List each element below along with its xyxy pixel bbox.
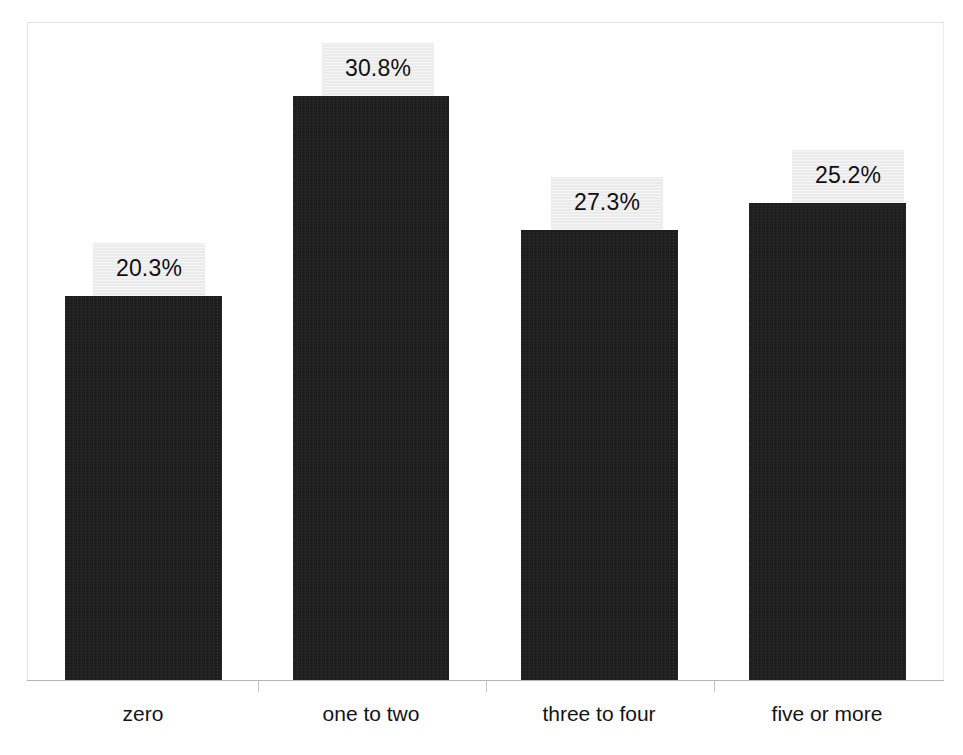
bar-one-to-two[interactable] bbox=[293, 96, 449, 680]
x-axis-category-label-zero: zero bbox=[43, 702, 243, 725]
bar-value-label-three-to-four: 27.3% bbox=[551, 177, 663, 230]
x-axis-category-label-one-to-two: one to two bbox=[271, 702, 471, 725]
plot-area: 20.3% 30.8% 27.3% 25.2% zero one to two … bbox=[0, 0, 963, 755]
x-axis-category-label-five-or-more: five or more bbox=[727, 702, 927, 725]
bar-value-label-five-or-more: 25.2% bbox=[792, 150, 904, 203]
bar-three-to-four[interactable] bbox=[521, 230, 678, 680]
x-axis-category-label-three-to-four: three to four bbox=[499, 702, 699, 725]
bar-chart: 20.3% 30.8% 27.3% 25.2% zero one to two … bbox=[0, 0, 963, 755]
bar-value-label-zero: 20.3% bbox=[93, 243, 205, 296]
x-axis-tick bbox=[486, 681, 487, 692]
bar-five-or-more[interactable] bbox=[749, 203, 906, 680]
x-axis-tick bbox=[258, 681, 259, 692]
bar-value-label-one-to-two: 30.8% bbox=[322, 43, 434, 96]
x-axis-tick bbox=[714, 681, 715, 692]
bar-zero[interactable] bbox=[65, 296, 222, 680]
